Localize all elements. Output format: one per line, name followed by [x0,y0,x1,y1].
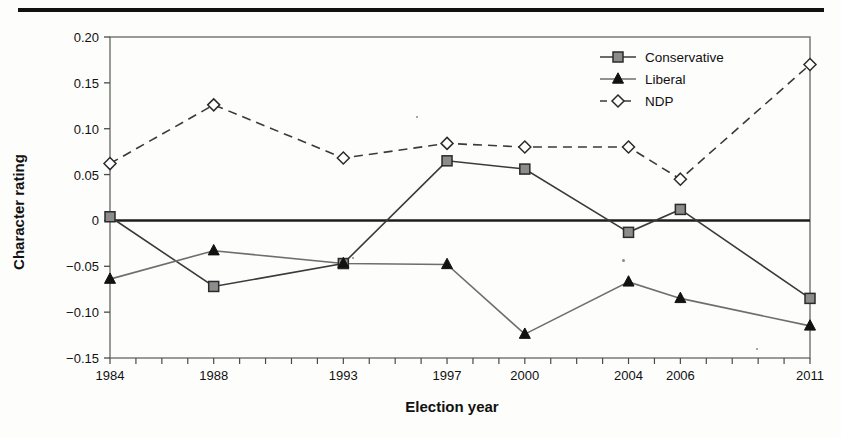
marker-triangle [623,276,634,286]
legend-label: Liberal [645,72,686,87]
y-tick-label: 0.05 [74,168,99,183]
y-tick-label: 0.15 [74,76,99,91]
y-tick-label: 0.20 [74,30,99,45]
y-tick-label: −0.15 [66,351,99,366]
marker-square [442,156,452,166]
marker-diamond [104,158,116,170]
y-axis-tick-labels: 0.200.150.100.050−0.05−0.10−0.15 [66,30,99,366]
y-tick-label: −0.10 [66,305,99,320]
scan-speck-d [756,348,758,350]
series-line-liberal [110,251,810,334]
y-tick-label: −0.05 [66,259,99,274]
marker-diamond [623,141,635,153]
series-line-conservative [110,161,810,299]
x-axis-ticks [110,358,810,364]
y-tick-label: 0.10 [74,122,99,137]
marker-triangle [519,328,530,338]
x-tick-label: 2006 [666,368,695,383]
y-axis-title: Character rating [10,154,27,270]
marker-square [613,52,623,62]
scan-speck-b [622,259,625,262]
x-tick-label: 2000 [510,368,539,383]
legend-label: Conservative [645,50,724,65]
marker-diamond [674,173,686,185]
legend-item-ndp[interactable]: NDP [600,94,674,109]
marker-triangle [208,244,219,254]
x-tick-label: 1993 [329,368,358,383]
x-axis-tick-labels: 19841988199319972000200420062011 [96,368,824,383]
marker-square [520,164,530,174]
series-markers-ndp [104,59,816,186]
plot-frame [110,37,810,358]
x-tick-label: 2004 [614,368,643,383]
line-chart: 0.200.150.100.050−0.05−0.10−0.15 1984198… [0,0,841,437]
x-tick-label: 1997 [433,368,462,383]
marker-square [209,281,219,291]
plot-border [110,37,810,358]
marker-square [105,212,115,222]
scan-speck-c [416,116,418,118]
marker-diamond [519,141,531,153]
marker-triangle [442,258,453,268]
marker-square [675,204,685,214]
x-tick-label: 1988 [199,368,228,383]
chart-legend: ConservativeLiberalNDP [600,50,724,109]
x-tick-label: 1984 [96,368,125,383]
y-tick-label: 0 [92,213,99,228]
marker-diamond [208,99,220,111]
legend-item-liberal[interactable]: Liberal [600,72,686,87]
x-axis-title: Election year [405,398,499,415]
legend-item-conservative[interactable]: Conservative [600,50,724,65]
marker-diamond [612,95,624,107]
marker-diamond [441,137,453,149]
marker-diamond [337,152,349,164]
marker-triangle [613,73,624,83]
series-markers [104,59,816,339]
y-axis-ticks [104,37,110,358]
marker-square [624,227,634,237]
x-tick-label: 2011 [796,368,824,383]
figure-container: 0.200.150.100.050−0.05−0.10−0.15 1984198… [0,0,841,437]
scan-speck-a [352,257,354,259]
legend-label: NDP [645,94,674,109]
marker-square [805,293,815,303]
